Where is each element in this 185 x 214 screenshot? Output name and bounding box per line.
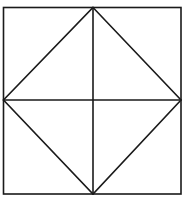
figure-caption <box>0 204 185 214</box>
square-rhombus-diagram <box>0 0 185 214</box>
